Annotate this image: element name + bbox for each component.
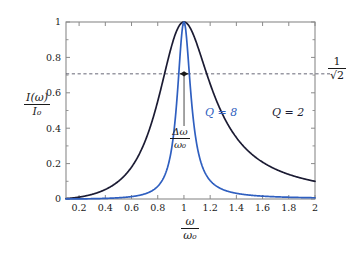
svg-text:1: 1 bbox=[181, 202, 187, 213]
svg-text:0.4: 0.4 bbox=[46, 123, 61, 134]
x-axis-label-denominator: ω₀ bbox=[181, 229, 198, 242]
svg-text:1.4: 1.4 bbox=[229, 202, 244, 213]
series-label-q8: Q = 8 bbox=[205, 106, 237, 119]
svg-text:1.2: 1.2 bbox=[203, 202, 218, 213]
svg-text:0.4: 0.4 bbox=[98, 202, 113, 213]
x-axis-label-numerator: ω bbox=[181, 216, 198, 229]
y-axis-label: I(ω) I₀ bbox=[14, 92, 60, 117]
half-power-label: 1 √2 bbox=[322, 56, 352, 81]
svg-text:0.6: 0.6 bbox=[124, 202, 139, 213]
svg-text:0.8: 0.8 bbox=[150, 202, 165, 213]
svg-text:1.8: 1.8 bbox=[281, 202, 296, 213]
fwhm-label: Δω ω₀ bbox=[160, 127, 200, 150]
y-axis-label-denominator: I₀ bbox=[24, 105, 50, 118]
resonance-chart-figure: 0.20.40.60.811.21.41.61.82 00.20.40.60.8… bbox=[0, 0, 353, 254]
svg-text:0.2: 0.2 bbox=[46, 158, 61, 169]
svg-text:2: 2 bbox=[312, 202, 318, 213]
half-power-denominator: √2 bbox=[328, 69, 346, 82]
x-axis-label: ω ω₀ bbox=[170, 216, 210, 241]
y-axis-label-numerator: I(ω) bbox=[24, 92, 50, 105]
svg-text:1.6: 1.6 bbox=[255, 202, 270, 213]
fwhm-numerator: Δω bbox=[170, 127, 189, 139]
half-power-numerator: 1 bbox=[328, 56, 346, 69]
svg-text:1: 1 bbox=[55, 16, 61, 27]
svg-text:0: 0 bbox=[55, 193, 61, 204]
svg-text:0.8: 0.8 bbox=[46, 52, 61, 63]
series-label-q2: Q = 2 bbox=[272, 106, 304, 119]
svg-text:0.2: 0.2 bbox=[72, 202, 87, 213]
fwhm-denominator: ω₀ bbox=[170, 139, 189, 151]
